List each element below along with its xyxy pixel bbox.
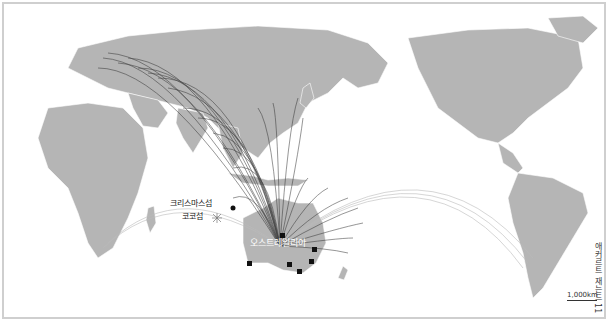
marker-sydney bbox=[309, 259, 314, 264]
cocos-island-label: 코코섬 bbox=[182, 210, 203, 221]
cocos-island-marker bbox=[212, 213, 222, 223]
world-map bbox=[8, 8, 608, 321]
marker-melbourne bbox=[297, 269, 302, 274]
scale-bar bbox=[567, 300, 597, 301]
map-frame: 크리스마스섬 코코섬 오스트레일리아 애커르트 재는드 11 1,000km bbox=[2, 2, 606, 319]
land-masses bbox=[38, 16, 598, 298]
christmas-island-marker bbox=[231, 206, 236, 211]
marker-perth bbox=[247, 261, 252, 266]
map-source-vertical: 애커르트 재는드 11 bbox=[592, 242, 603, 313]
marker-adelaide bbox=[287, 262, 292, 267]
christmas-island-label: 크리스마스섬 bbox=[170, 197, 212, 208]
marker-brisbane bbox=[312, 247, 317, 252]
scale-label: 1,000km bbox=[567, 291, 598, 299]
australia-label: 오스트레일리아 bbox=[250, 236, 306, 249]
